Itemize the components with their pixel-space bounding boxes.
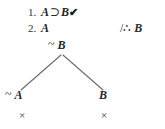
premise-2-formula: A xyxy=(41,22,49,34)
horseshoe-icon: ⊃ xyxy=(49,5,61,19)
premise-1-formula: A⊃B✔ xyxy=(41,6,78,18)
premise-1-antecedent: A xyxy=(41,5,49,19)
branch-line-right xyxy=(63,55,103,90)
conclusion-formula: B xyxy=(134,21,142,35)
branch-leaf-right: B xyxy=(99,89,107,101)
branch-leaf-left: ~ A xyxy=(5,89,23,101)
conclusion-marker: /∴ B xyxy=(120,22,142,34)
negated-conclusion-formula: B xyxy=(58,38,66,52)
premise-1-number: 1. xyxy=(28,7,36,18)
closed-branch-x-icon-right: × xyxy=(101,110,107,121)
premise-1-consequent: B xyxy=(61,5,69,19)
therefore-icon: ∴ xyxy=(123,21,131,35)
negated-conclusion-node: ~ B xyxy=(48,39,66,51)
branch-line-left xyxy=(21,55,61,90)
negation-icon: ~ xyxy=(48,37,55,51)
premise-2-number: 2. xyxy=(28,23,36,34)
negation-icon-left: ~ xyxy=(5,87,12,101)
truth-tree-diagram: 1. A⊃B✔ 2. A /∴ B ~ B ~ A B × × xyxy=(0,0,165,129)
branch-leaf-left-formula: A xyxy=(15,88,23,102)
checkmark-icon: ✔ xyxy=(69,6,78,18)
branch-leaf-right-formula: B xyxy=(99,88,107,102)
closed-branch-x-icon-left: × xyxy=(19,110,25,121)
